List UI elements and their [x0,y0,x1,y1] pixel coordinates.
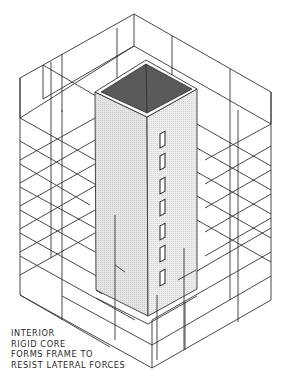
building-core-diagram [0,0,283,380]
caption-line: INTERIOR [11,328,125,339]
caption-line: RIGID CORE [11,339,125,350]
diagram-caption: INTERIOR RIGID CORE FORMS FRAME TO RESIS… [11,328,125,370]
caption-line: FORMS FRAME TO [11,349,125,360]
core-right-face [147,89,197,316]
rigid-core [95,60,197,324]
core-left-face [95,92,148,316]
caption-line: RESIST LATERAL FORCES [11,360,125,371]
